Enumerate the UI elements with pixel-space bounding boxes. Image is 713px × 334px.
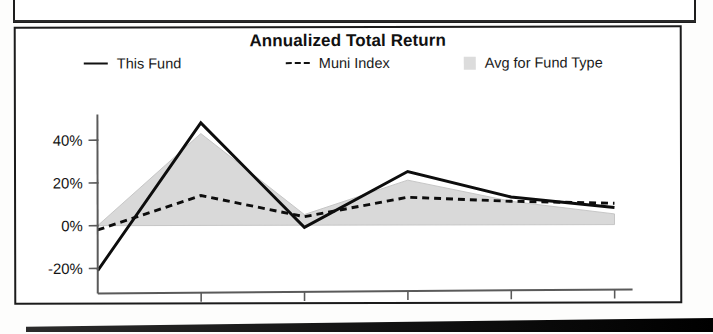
y-axis-tick-label: -20% (48, 260, 83, 277)
y-axis-tick-label: 40% (53, 132, 83, 149)
legend-label-muni-index: Muni Index (319, 55, 390, 71)
chart-plot-svg: 40%20%0%-20% 200720082009201020112012YTD (16, 83, 680, 302)
solid-line-swatch-icon (84, 63, 108, 65)
gray-square-swatch-icon (464, 56, 476, 69)
y-axis-tick-label: 20% (53, 174, 83, 191)
panel-above-chart (13, 0, 696, 23)
chart-legend: This Fund Muni Index Avg for Fund Type (16, 54, 680, 77)
annualized-total-return-chart-panel: Annualized Total Return This Fund Muni I… (14, 25, 683, 304)
plot-area: 40%20%0%-20% 200720082009201020112012YTD (16, 83, 680, 302)
legend-item-this-fund[interactable]: This Fund (84, 55, 182, 71)
chart-title: Annualized Total Return (16, 30, 680, 51)
dashed-line-swatch-icon (286, 62, 310, 64)
legend-item-avg-for-fund-type[interactable]: Avg for Fund Type (464, 54, 603, 70)
page-bottom-bar (26, 318, 713, 332)
legend-label-avg-for-fund-type: Avg for Fund Type (485, 54, 603, 70)
scanned-page: Annualized Total Return This Fund Muni I… (0, 0, 713, 334)
legend-label-this-fund: This Fund (117, 55, 182, 71)
legend-item-muni-index[interactable]: Muni Index (286, 55, 390, 71)
series-area-avg-for-fund-type (97, 133, 614, 226)
y-axis-tick-label: 0% (61, 217, 83, 234)
